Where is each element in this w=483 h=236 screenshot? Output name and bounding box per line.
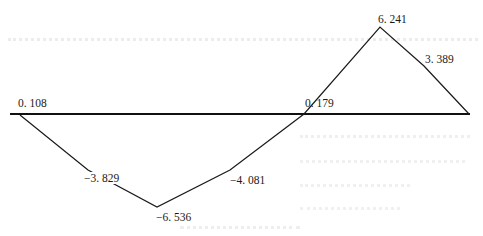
value-label-cross: 0. 179 [305,97,334,109]
value-label-kink3: 3. 389 [425,53,454,65]
value-label-kink2: −4. 081 [230,174,265,186]
value-label-peak: 6. 241 [378,13,407,25]
force-diagram [0,0,483,236]
value-label-start: 0. 108 [18,97,47,109]
value-label-kink1: −3. 829 [83,172,120,184]
value-label-min: −6. 536 [156,211,191,223]
diagram-canvas: 0. 108 −3. 829 −6. 536 −4. 081 0. 179 6.… [0,0,483,236]
